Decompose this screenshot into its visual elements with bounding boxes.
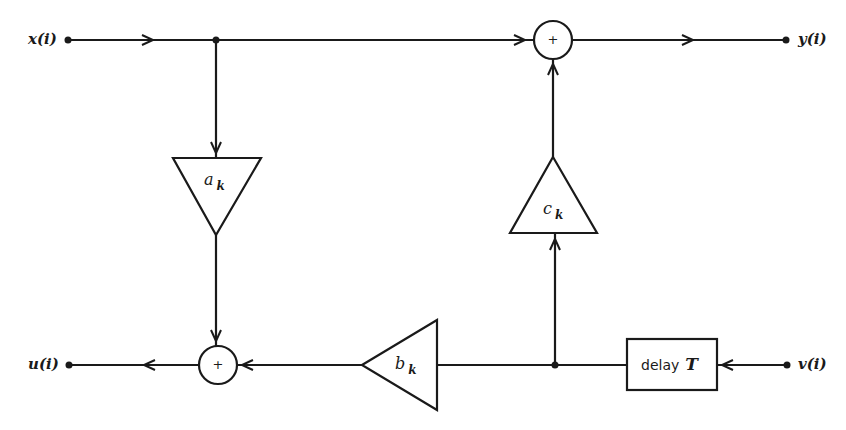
gain-c-triangle (510, 157, 597, 233)
junction-dot-bottom (552, 362, 559, 369)
terminal-dot-u (66, 362, 73, 369)
label-u-output: u(i) (28, 357, 59, 372)
gain-c-label: ck (543, 201, 563, 221)
terminal-dot-x (65, 37, 72, 44)
label-y-output: y(i) (798, 32, 827, 47)
gain-a-label: ak (204, 172, 225, 192)
label-v-input: v(i) (798, 357, 827, 372)
adder-top-plus: + (543, 33, 563, 46)
signal-flow-diagram (0, 0, 846, 430)
adder-bottom-plus: + (208, 358, 228, 371)
gain-b-label: bk (395, 356, 417, 376)
delay-label: delayT (641, 356, 698, 373)
terminal-dot-v (784, 362, 791, 369)
gain-a-triangle (173, 158, 261, 235)
terminal-dot-y (783, 37, 790, 44)
label-x-input: x(i) (28, 32, 57, 47)
junction-dot-top (213, 37, 220, 44)
